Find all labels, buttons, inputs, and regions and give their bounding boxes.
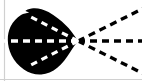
ray-origin-point	[77, 40, 79, 42]
figure-container	[0, 0, 142, 81]
blob-ray-diagram	[0, 0, 142, 81]
